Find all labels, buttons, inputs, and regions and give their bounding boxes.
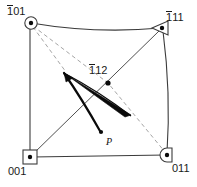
label-node-111-rest: 11 <box>172 11 183 23</box>
edge-dashed-101-wedge <box>33 27 66 72</box>
edge-top <box>31 23 161 30</box>
wedge-arrow-body <box>64 73 131 117</box>
wedge-arrow <box>64 73 131 117</box>
p-point-dot <box>99 130 103 134</box>
label-node-112-bar: 1 <box>89 65 95 76</box>
node-001[interactable] <box>23 150 37 164</box>
node-111[interactable] <box>152 21 168 35</box>
node-112[interactable] <box>105 80 110 85</box>
node-011-center-dot <box>165 153 169 157</box>
label-node-011: 011 <box>172 163 190 174</box>
label-node-112: 112 <box>89 65 107 76</box>
label-node-101-rest: 01 <box>13 5 25 17</box>
label-node-101: 101 <box>7 6 25 17</box>
node-101[interactable] <box>25 17 37 29</box>
edge-bottom <box>32 155 166 157</box>
node-111-center-dot <box>160 26 164 30</box>
label-node-101-bar: 1 <box>7 6 13 17</box>
figure-container: 101 111 112 001 011 P <box>0 0 197 187</box>
edge-right <box>163 31 168 153</box>
p-arrow <box>64 73 103 134</box>
label-point-p: P <box>106 136 112 147</box>
dot-icon <box>105 80 110 85</box>
frame-edges <box>30 23 168 157</box>
label-node-111: 111 <box>166 12 184 23</box>
node-001-center-dot <box>28 155 32 159</box>
label-node-001: 001 <box>8 166 26 177</box>
p-arrow-tail-wedge <box>64 73 73 82</box>
node-101-center-dot <box>29 21 33 25</box>
diagram-canvas <box>0 0 197 187</box>
node-011[interactable] <box>160 148 172 162</box>
label-node-111-bar: 1 <box>166 12 172 23</box>
p-arrow-shaft <box>64 73 100 131</box>
label-node-112-rest: 12 <box>95 64 107 76</box>
